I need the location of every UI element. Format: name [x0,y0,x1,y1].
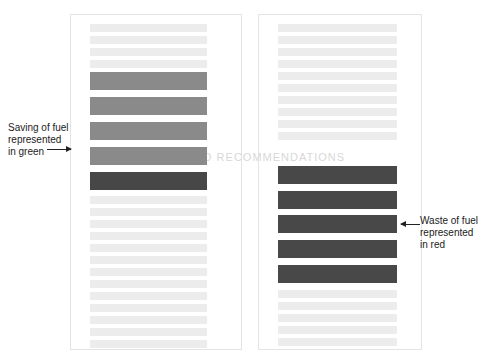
fuel-bar [278,265,397,283]
saving-label-line: Saving of fuel [8,122,69,134]
faint-text-line [90,60,207,68]
faint-text-line [278,290,397,298]
faint-text-line [278,72,397,80]
faint-text-line [278,108,397,116]
faint-text-line [278,302,397,310]
faint-text-line [278,314,397,322]
faint-text-line [278,338,397,346]
faint-text-line [278,96,397,104]
waste-label-line: represented [420,227,478,239]
faint-text-line [90,244,207,252]
faint-text-line [278,36,397,44]
waste-label-line: in red [420,239,478,251]
waste-arrow-icon [401,224,420,225]
fuel-bar [90,147,207,165]
faint-text-line [90,292,207,300]
fuel-bar [90,122,207,140]
saving-label-line: represented [8,134,69,146]
faint-text-line [90,316,207,324]
faint-text-line [90,304,207,312]
faint-text-line [90,208,207,216]
faint-text-line [278,120,397,128]
faint-text-line [278,326,397,334]
faint-text-line [90,36,207,44]
saving-arrow-icon [47,149,71,150]
faint-text-line [278,84,397,92]
faint-text-line [90,328,207,336]
faint-text-line [90,232,207,240]
faint-text-line [278,48,397,56]
fuel-bar [278,166,397,184]
faint-text-line [90,220,207,228]
faint-text-line [90,268,207,276]
waste-label: Waste of fuel represented in red [420,215,478,251]
faint-text-line [90,24,207,32]
fuel-bar [90,72,207,90]
waste-label-line: Waste of fuel [420,215,478,227]
fuel-bar [90,172,207,190]
fuel-bar [278,240,397,258]
faint-text-line [278,132,397,140]
faint-text-line [90,196,207,204]
saving-label: Saving of fuel represented in green [8,122,69,158]
faint-text-line [278,24,397,32]
faint-text-line [278,60,397,68]
fuel-bar [90,97,207,115]
saving-label-line: in green [8,146,69,158]
faint-text-line [90,48,207,56]
faint-text-line [90,256,207,264]
fuel-bar [278,191,397,209]
faint-text-line [90,280,207,288]
fuel-bar [278,215,397,233]
faint-text-line [90,340,207,348]
